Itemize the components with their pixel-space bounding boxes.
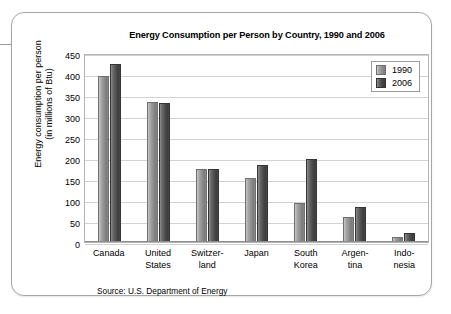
bar-group [196, 55, 219, 242]
chart-title: Energy Consumption per Person by Country… [84, 30, 430, 40]
y-axis-tick-label: 350 [50, 93, 80, 103]
x-axis-label: Argen-tina [332, 247, 378, 281]
legend-label-1990: 1990 [392, 65, 412, 75]
x-axis-baseline [85, 241, 428, 242]
x-axis-label-line: Korea [283, 259, 329, 271]
bar-group [98, 55, 121, 242]
y-axis-title-line1: Energy consumption per person [33, 24, 44, 184]
chart-card: Energy Consumption per Person by Country… [11, 12, 432, 296]
plot-wrapper: 450400350300250200150100500 1990 2006 [84, 54, 429, 243]
bar-1990[interactable] [294, 203, 305, 242]
legend-label-2006: 2006 [392, 78, 412, 88]
x-axis-label-line: nesia [381, 259, 427, 271]
y-axis-tick-label: 200 [50, 156, 80, 166]
bar-group [245, 55, 268, 242]
bar-1990[interactable] [147, 102, 158, 242]
bar-1990[interactable] [343, 217, 354, 242]
bar-group [343, 55, 366, 242]
chart-legend: 1990 2006 [371, 61, 420, 92]
x-axis-label: Switzer-land [184, 247, 230, 281]
y-axis-tick-label: 400 [50, 72, 80, 82]
bar-2006[interactable] [159, 103, 170, 242]
gridline: 0 [85, 244, 428, 245]
x-axis-label-line: South [283, 247, 329, 259]
y-axis-tick-label: 50 [50, 219, 80, 229]
bar-2006[interactable] [208, 169, 219, 243]
x-axis-label: UnitedStates [135, 247, 181, 281]
y-axis-tick-label: 150 [50, 177, 80, 187]
legend-swatch-2006-icon [376, 78, 386, 88]
bar-2006[interactable] [110, 64, 121, 243]
legend-item-2006: 2006 [376, 78, 412, 88]
x-axis-label-line: Canada [86, 247, 132, 259]
x-axis-label-line: Argen- [332, 247, 378, 259]
x-axis-label: Indo-nesia [381, 247, 427, 281]
bar-group [147, 55, 170, 242]
y-axis-tick-label: 250 [50, 135, 80, 145]
x-axis-label-line: United [135, 247, 181, 259]
x-axis-label-line: Switzer- [184, 247, 230, 259]
bar-1990[interactable] [245, 178, 256, 242]
x-axis-label-line: States [135, 259, 181, 271]
y-axis-tick-label: 300 [50, 114, 80, 124]
bar-group [294, 55, 317, 242]
x-axis-label-line: Japan [233, 247, 279, 259]
x-axis-label-line: tina [332, 259, 378, 271]
y-axis-tick-label: 0 [50, 240, 80, 250]
x-axis-label-line: Indo- [381, 247, 427, 259]
source-note: Source: U.S. Department of Energy [97, 286, 228, 296]
x-axis-label: SouthKorea [283, 247, 329, 281]
x-axis-label: Canada [86, 247, 132, 281]
x-axis-labels: CanadaUnitedStatesSwitzer-landJapanSouth… [84, 247, 429, 281]
x-axis-label-line: land [184, 259, 230, 271]
bar-1990[interactable] [98, 76, 109, 242]
bar-2006[interactable] [257, 165, 268, 242]
bar-2006[interactable] [355, 207, 366, 242]
y-axis-tick-label: 450 [50, 51, 80, 61]
plot-area: 450400350300250200150100500 1990 2006 [84, 54, 429, 243]
y-axis-tick-label: 100 [50, 198, 80, 208]
legend-swatch-1990-icon [376, 65, 386, 75]
legend-item-1990: 1990 [376, 65, 412, 75]
bar-2006[interactable] [306, 159, 317, 242]
x-axis-label: Japan [233, 247, 279, 281]
bar-1990[interactable] [196, 169, 207, 243]
